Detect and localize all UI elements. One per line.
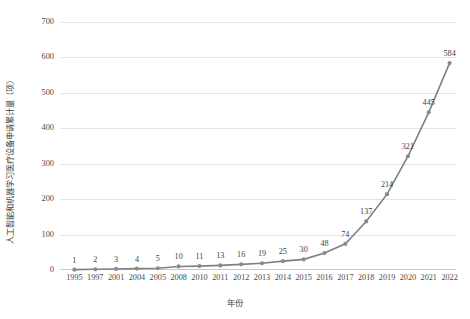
x-axis-tick-label: 2001 [108, 274, 124, 282]
series-polyline [74, 63, 449, 270]
data-point-label: 48 [320, 240, 328, 248]
data-point-marker [322, 251, 326, 255]
y-axis-tick-label: 100 [22, 230, 54, 238]
data-point-label: 321 [402, 143, 414, 151]
data-point-marker [239, 262, 243, 266]
y-axis-tick-label: 0 [22, 266, 54, 274]
series-line [60, 22, 456, 270]
x-axis-tick-label: 2017 [337, 274, 353, 282]
data-point-marker [135, 266, 139, 270]
x-axis-tick-label: 2020 [400, 274, 416, 282]
x-axis-tick-label: 2019 [379, 274, 395, 282]
data-point-label: 16 [237, 251, 245, 259]
data-point-label: 137 [360, 208, 372, 216]
y-axis-tick-label: 700 [22, 18, 54, 26]
data-point-marker [197, 264, 201, 268]
x-axis-tick-label: 2010 [191, 274, 207, 282]
data-point-marker [385, 192, 389, 196]
data-point-label: 19 [258, 250, 266, 258]
y-axis-tick-label: 400 [22, 124, 54, 132]
data-point-marker [114, 267, 118, 271]
data-point-label: 584 [443, 50, 455, 58]
data-point-label: 13 [216, 252, 224, 260]
y-axis-tick-labels: 0100200300400500600700 [22, 0, 54, 319]
x-axis-tick-label: 2005 [150, 274, 166, 282]
data-point-marker [302, 257, 306, 261]
data-point-label: 25 [279, 248, 287, 256]
data-point-marker [343, 242, 347, 246]
data-point-label: 74 [341, 231, 349, 239]
data-point-marker [72, 268, 76, 272]
x-axis-tick-label: 2015 [295, 274, 311, 282]
data-point-marker [218, 263, 222, 267]
x-axis-tick-label: 2016 [316, 274, 332, 282]
x-axis-tick-labels: 1995199720012004200520082010201120122013… [60, 274, 456, 290]
x-axis-tick-label: 2022 [441, 274, 457, 282]
data-point-marker [93, 267, 97, 271]
x-axis-tick-label: 2014 [275, 274, 291, 282]
x-axis-tick-label: 2011 [212, 274, 228, 282]
x-axis-tick-label: 2008 [170, 274, 186, 282]
data-point-label: 5 [156, 255, 160, 263]
x-axis-tick-label: 1995 [66, 274, 82, 282]
data-point-marker [177, 264, 181, 268]
data-point-label: 445 [423, 99, 435, 107]
data-point-label: 10 [175, 253, 183, 261]
data-point-marker [281, 259, 285, 263]
data-point-label: 1 [72, 256, 76, 264]
x-axis-title: 年份 [0, 296, 470, 308]
x-axis-tick-label: 2004 [129, 274, 145, 282]
x-axis-tick-label: 1997 [87, 274, 103, 282]
data-point-label: 11 [196, 253, 204, 261]
data-point-marker [427, 110, 431, 114]
data-point-marker [447, 61, 451, 65]
y-axis-title: 人工智能和机器学习医疗设备申请累计量（项） [0, 0, 22, 319]
data-point-label: 2 [93, 256, 97, 264]
data-point-label: 30 [300, 246, 308, 254]
x-axis-tick-label: 2013 [254, 274, 270, 282]
data-point-label: 214 [381, 181, 393, 189]
x-axis-tick-label: 2018 [358, 274, 374, 282]
data-point-marker [406, 154, 410, 158]
data-point-label: 3 [114, 256, 118, 264]
y-axis-tick-label: 600 [22, 53, 54, 61]
data-point-marker [364, 219, 368, 223]
data-point-marker [156, 266, 160, 270]
data-point-marker [260, 261, 264, 265]
x-axis-tick-label: 2012 [233, 274, 249, 282]
y-axis-tick-label: 500 [22, 89, 54, 97]
x-axis-tick-label: 2021 [421, 274, 437, 282]
line-chart: 人工智能和机器学习医疗设备申请累计量（项） 010020030040050060… [0, 0, 470, 319]
y-axis-tick-label: 200 [22, 195, 54, 203]
plot-area: 12345101113161925304874137214321445584 [60, 22, 456, 270]
data-point-label: 4 [135, 255, 139, 263]
y-axis-tick-label: 300 [22, 160, 54, 168]
